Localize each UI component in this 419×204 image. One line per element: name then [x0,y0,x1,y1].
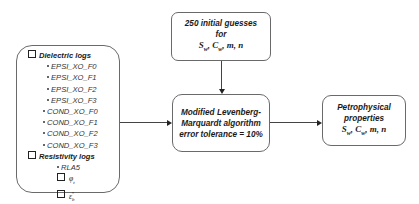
initial-guesses-params: Sw, Cw, m, n [199,40,244,55]
arrow-right-icon [167,120,172,126]
initial-guesses-for: for [216,29,227,40]
petrophysical-properties-box: Petrophysical properties Sw, Cw, m, n [322,95,406,146]
permittivity-symbol-row: εb* [17,188,119,204]
connector-top-to-mid [221,61,222,90]
algorithm-line-2: Marquardt algorithm [181,118,261,129]
algorithm-line-3: error tolerance = 10% [179,129,263,140]
output-params: Sw, Cw, m, n [342,124,387,139]
list-item: EPSI_XO_F2 [17,84,119,95]
output-line-1: Petrophysical [337,102,391,113]
connector-mid-to-right [270,122,318,123]
list-item: COND_XO_F2 [17,128,119,139]
bullet-icon [47,76,49,78]
list-item: COND_XO_F3 [17,140,119,151]
arrow-down-icon [219,89,225,94]
porosity-symbol-row: φt [17,173,119,188]
list-item: COND_XO_F1 [17,117,119,128]
list-item: EPSI_XO_F1 [17,72,119,83]
list-item: COND_XO_F0 [17,106,119,117]
checkbox-square-icon [57,190,65,198]
connector-left-to-mid [120,122,168,123]
algorithm-line-1: Modified Levenberg- [181,107,261,118]
bullet-icon [47,88,49,90]
bullet-icon [57,166,59,168]
checkbox-square-icon [28,151,36,159]
checkbox-square-icon [57,173,65,181]
input-logs-box: Dielectric logs EPSI_XO_F0 EPSI_XO_F1 EP… [16,45,120,193]
resistivity-logs-heading: Resistivity logs [17,151,119,162]
list-item: EPSI_XO_F0 [17,61,119,72]
input-logs-list: Dielectric logs EPSI_XO_F0 EPSI_XO_F1 EP… [17,50,119,204]
bullet-icon [43,132,45,134]
initial-guesses-box: 250 initial guesses for Sw, Cw, m, n [171,12,271,61]
bullet-icon [47,65,49,67]
arrow-right-icon [317,120,322,126]
initial-guesses-title: 250 initial guesses [185,18,257,29]
list-item: RLA5 [17,162,119,173]
algorithm-box: Modified Levenberg- Marquardt algorithm … [172,94,270,152]
list-item: EPSI_XO_F3 [17,95,119,106]
bullet-icon [43,121,45,123]
bullet-icon [43,110,45,112]
bullet-icon [47,99,49,101]
output-line-2: properties [344,113,384,124]
checkbox-square-icon [28,50,36,58]
bullet-icon [43,144,45,146]
dielectric-logs-heading: Dielectric logs [17,50,119,61]
